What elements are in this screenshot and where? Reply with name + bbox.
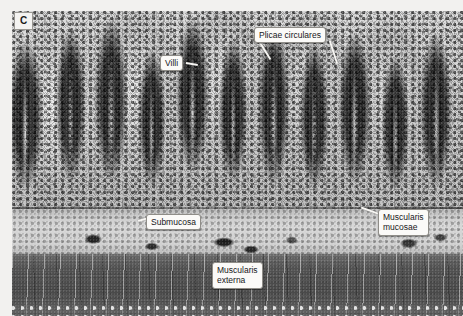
callout-villi: Villi [160, 55, 183, 71]
callout-muscularis-externa: Muscularis externa [212, 262, 263, 289]
panel-letter-box: C [14, 12, 33, 30]
serosa-edge [12, 304, 463, 316]
callout-muscularis-mucosae: Muscularis mucosae [378, 209, 429, 236]
callout-submucosa: Submucosa [146, 214, 201, 230]
histology-figure: C Plicae circulares Villi Submucosa Musc… [0, 0, 463, 316]
callout-plicae-circulares: Plicae circulares [254, 27, 326, 43]
